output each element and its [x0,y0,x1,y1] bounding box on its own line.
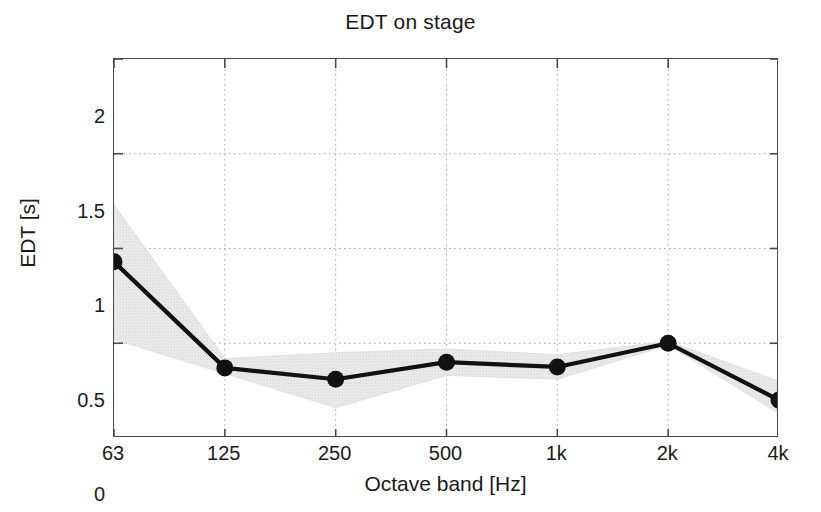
plot-area [113,58,778,437]
x-tick-label-2k: 2k [657,443,678,463]
plot-inner [114,59,777,436]
chart-figure: EDT on stage EDT [s] 2 1.5 1 0.5 0 [0,0,821,512]
x-tick-label-250: 250 [318,443,351,463]
chart-canvas [114,59,777,436]
gridlines [114,59,777,436]
x-axis-tick-labels: 63 125 250 500 1k 2k 4k [113,443,778,471]
data-point [549,358,566,375]
data-point-markers [114,253,777,408]
y-tick-label-2: 2 [94,106,105,126]
data-point [216,359,233,376]
x-tick-label-125: 125 [207,443,240,463]
data-point [438,354,455,371]
axis-ticks [114,59,777,436]
data-point [660,335,677,352]
x-tick-label-1k: 1k [546,443,567,463]
chart-title: EDT on stage [0,10,821,34]
x-axis-title: Octave band [Hz] [113,472,778,496]
x-tick-label-63: 63 [102,443,124,463]
y-tick-label-1_5: 1.5 [77,201,105,221]
y-axis-tick-labels: 2 1.5 1 0.5 0 [48,58,105,437]
uncertainty-band [114,205,777,413]
y-axis-title: EDT [s] [16,143,40,323]
series-line [114,262,777,400]
y-tick-label-0_5: 0.5 [77,390,105,410]
y-tick-label-0: 0 [94,484,105,504]
x-tick-label-4k: 4k [767,443,788,463]
data-point [327,371,344,388]
x-tick-label-500: 500 [429,443,462,463]
y-tick-label-1: 1 [94,295,105,315]
